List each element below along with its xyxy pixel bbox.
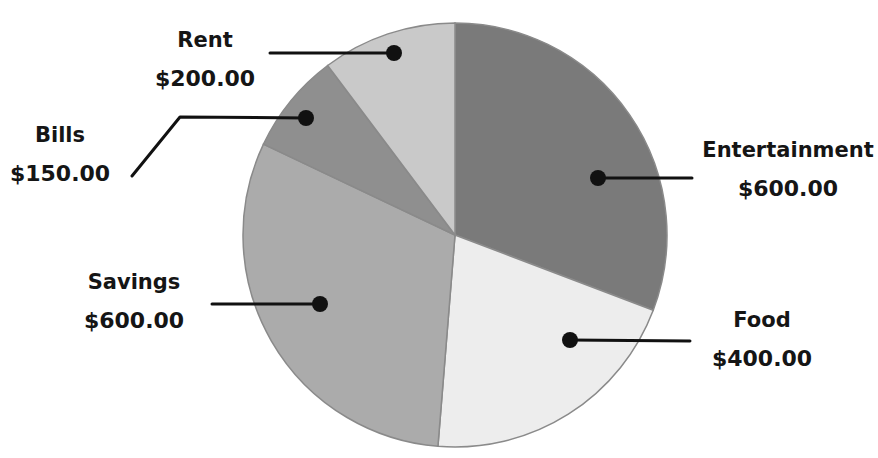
label-name: Bills: [10, 125, 110, 146]
label-value: $150.00: [10, 163, 110, 185]
label-rent: Rent $200.00: [155, 30, 255, 90]
leader-dot-rent: [386, 45, 402, 61]
leader-dot-bills: [298, 110, 314, 126]
leader-line-food: [570, 340, 690, 341]
label-savings: Savings $600.00: [84, 272, 184, 332]
label-name: Food: [712, 310, 812, 331]
leader-dot-entertainment: [590, 170, 606, 186]
label-value: $600.00: [702, 178, 873, 200]
label-value: $600.00: [84, 310, 184, 332]
label-name: Entertainment: [702, 140, 873, 161]
label-name: Rent: [155, 30, 255, 51]
label-entertainment: Entertainment $600.00: [702, 140, 873, 200]
label-value: $200.00: [155, 68, 255, 90]
pie-slices: [243, 23, 667, 447]
label-name: Savings: [84, 272, 184, 293]
label-bills: Bills $150.00: [10, 125, 110, 185]
pie-chart-canvas: [0, 0, 878, 458]
label-food: Food $400.00: [712, 310, 812, 370]
leader-dot-savings: [312, 296, 328, 312]
leader-dot-food: [562, 332, 578, 348]
label-value: $400.00: [712, 348, 812, 370]
